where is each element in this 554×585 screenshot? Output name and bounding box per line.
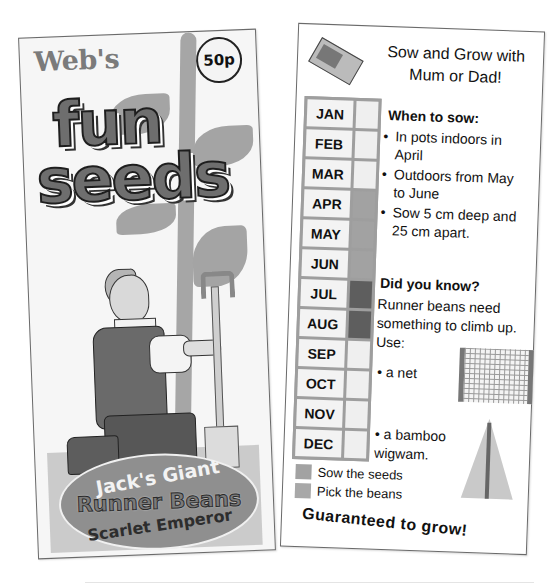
option-wigwam-label: a bamboo wigwam. bbox=[374, 426, 446, 463]
calendar-status-cell bbox=[346, 371, 369, 399]
seed-packet-icon bbox=[308, 37, 364, 85]
seed-packet-front: Web's 50p fun seeds Jack's Giant Runner … bbox=[18, 29, 276, 560]
when-to-sow-list: In pots indoors in April Outdoors from M… bbox=[380, 127, 524, 246]
calendar-month-label: APR bbox=[303, 189, 350, 218]
calendar-status-cell bbox=[347, 341, 370, 369]
calendar-row: FEB bbox=[306, 129, 378, 158]
calendar-row: MAY bbox=[302, 219, 374, 248]
calendar-status-cell bbox=[353, 161, 376, 189]
legend-swatch bbox=[295, 464, 312, 480]
calendar-month-label: SEP bbox=[298, 339, 345, 368]
calendar-row: SEP bbox=[298, 339, 370, 368]
calendar-month-label: OCT bbox=[297, 369, 344, 398]
tagline: Guaranteed to grow! bbox=[301, 505, 468, 540]
calendar-status-cell bbox=[344, 431, 367, 459]
calendar-row: JUN bbox=[301, 249, 373, 278]
calendar-status-cell bbox=[345, 401, 368, 429]
calendar-month-label: NOV bbox=[296, 399, 343, 428]
calendar-legend: Sow the seedsPick the beans bbox=[295, 462, 404, 504]
option-wigwam: • a bamboo wigwam. bbox=[374, 425, 455, 466]
calendar-month-label: MAY bbox=[302, 219, 349, 248]
option-net: • a net bbox=[377, 363, 418, 383]
calendar-status-cell bbox=[355, 131, 378, 159]
price-badge: 50p bbox=[195, 36, 243, 84]
calendar-month-label: DEC bbox=[295, 429, 342, 458]
sow-bullet: In pots indoors in April bbox=[382, 127, 523, 168]
calendar-status-cell bbox=[350, 251, 373, 279]
calendar-row: JUL bbox=[300, 279, 372, 308]
calendar-row: APR bbox=[303, 189, 375, 218]
calendar-month-label: JAN bbox=[307, 99, 354, 128]
calendar-status-cell bbox=[348, 311, 371, 339]
bamboo-wigwam-icon bbox=[461, 418, 516, 500]
net-icon bbox=[458, 348, 534, 405]
calendar-status-cell bbox=[349, 281, 372, 309]
calendar-status-cell bbox=[356, 101, 379, 129]
scan-bottom-rule bbox=[85, 582, 534, 583]
calendar-status-cell bbox=[352, 191, 375, 219]
legend-item: Pick the beans bbox=[295, 481, 403, 504]
calendar-row: OCT bbox=[297, 369, 369, 398]
headline: Sow and Grow with Mum or Dad! bbox=[375, 41, 536, 91]
did-you-know-title: Did you know? bbox=[380, 275, 480, 294]
sowing-calendar: JANFEBMARAPRMAYJUNJULAUGSEPOCTNOVDEC bbox=[292, 96, 382, 461]
calendar-month-label: MAR bbox=[305, 159, 352, 188]
legend-label: Sow the seeds bbox=[317, 465, 403, 483]
calendar-row: NOV bbox=[296, 399, 368, 428]
calendar-month-label: JUN bbox=[301, 249, 348, 278]
calendar-row: MAR bbox=[305, 159, 377, 188]
title-line-2: seeds bbox=[36, 147, 230, 210]
calendar-row: DEC bbox=[295, 429, 367, 458]
calendar-month-label: FEB bbox=[306, 129, 353, 158]
head-shape bbox=[108, 274, 150, 324]
sow-bullet: Sow 5 cm deep and 25 cm apart. bbox=[380, 203, 521, 244]
legend-label: Pick the beans bbox=[317, 484, 403, 502]
did-you-know-text: Runner beans need something to climb up.… bbox=[376, 295, 526, 357]
calendar-month-label: JUL bbox=[300, 279, 347, 308]
legend-swatch bbox=[295, 483, 312, 499]
calendar-row: JAN bbox=[307, 99, 379, 128]
option-net-label: a net bbox=[386, 364, 418, 381]
calendar-month-label: AUG bbox=[299, 309, 346, 338]
calendar-status-cell bbox=[351, 221, 374, 249]
sow-bullet: Outdoors from May to June bbox=[381, 165, 522, 206]
seed-packet-back: Sow and Grow with Mum or Dad! JANFEBMARA… bbox=[280, 23, 545, 555]
calendar-row: AUG bbox=[299, 309, 371, 338]
when-to-sow-title: When to sow: bbox=[388, 107, 480, 126]
brand-name: Web's bbox=[33, 43, 119, 77]
product-line-title: fun seeds bbox=[51, 91, 229, 210]
